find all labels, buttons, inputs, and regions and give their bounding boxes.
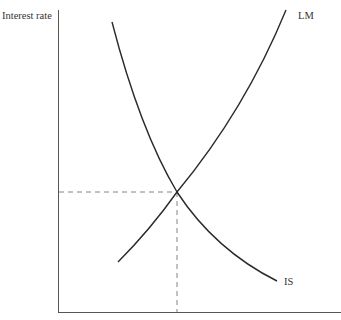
is-lm-diagram — [0, 0, 341, 320]
